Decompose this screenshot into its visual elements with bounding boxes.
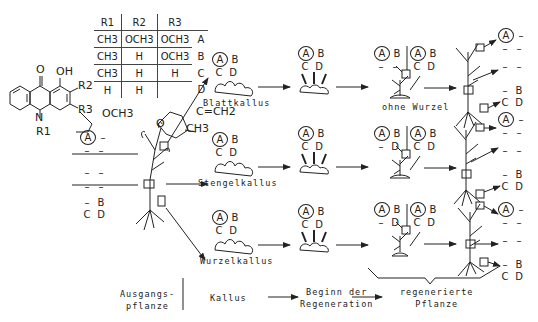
stem-callus-blob (215, 162, 253, 177)
stage-callus: Kallus (210, 293, 247, 303)
stem-callus-compounds: AB CD (212, 132, 242, 159)
leaf-regen-compounds: A– –– –– –B CD (498, 28, 528, 109)
stem-regen-compounds: A– –– –– –B CD (498, 112, 528, 193)
side-chain-methyl: CH3 (186, 123, 209, 134)
leaf-plantlet-base-compounds: AB CD (410, 46, 440, 73)
root-callus-blob (215, 240, 253, 255)
stem-plantlet-base-compounds: AB CD (410, 126, 440, 153)
regenerated-plant-drawings (454, 40, 500, 276)
leaf-callus-label: Blattkallus (203, 98, 270, 108)
table-row: CH3 H H C (94, 65, 208, 82)
stage-source-plant: Ausgangs- pflanze (120, 288, 175, 312)
stem-begin-compounds: AB CD (298, 126, 328, 153)
root-callus-compounds: AB CD (212, 210, 242, 237)
table-row: CH3 H OCH3 B (94, 48, 208, 65)
oh-label: OH (56, 66, 73, 77)
r2-label: R2 (78, 80, 93, 91)
leaf-begin-compounds: AB CD (298, 46, 328, 73)
och3-label: OCH3 (102, 108, 134, 119)
n-label: N (35, 112, 43, 123)
stage-begin-regeneration: Beginn der Regeneration (300, 286, 373, 310)
leaf-callus-blob (215, 82, 253, 97)
carbonyl-o-label: O (36, 64, 45, 75)
no-root-note: ohne Wurzel (382, 102, 449, 112)
root-callus-label: Wurzelkallus (200, 256, 273, 266)
root-plantlet-shoot-compounds: AB –D (374, 202, 404, 229)
source-plant-compounds: A– –– –– –– –B CD (80, 130, 110, 221)
r1-label: R1 (36, 126, 51, 137)
stem-callus-label: Stengelkallus (198, 178, 278, 188)
r3-label: R3 (78, 104, 93, 115)
table-header-row: R1 R2 R3 (94, 14, 208, 31)
root-regen-compounds: A– –– –– –B CD (498, 202, 528, 283)
source-plant-drawing (136, 122, 170, 230)
stage-regenerated-plant: regenerierte Pflanze (400, 286, 473, 310)
table-row: CH3 OCH3 OCH3 A (94, 31, 208, 48)
root-plantlet-base-compounds: AB CD (410, 202, 440, 229)
substituent-table: R1 R2 R3 CH3 OCH3 OCH3 A CH3 H OCH3 B CH… (94, 14, 208, 98)
stem-plantlet-shoot-compounds: AB –D (374, 126, 404, 153)
leaf-callus-compounds: AB CD (212, 52, 242, 79)
table-row: H H D (94, 82, 208, 99)
side-chain-ring-o: O (156, 118, 165, 129)
root-begin-compounds: AB CD (298, 204, 328, 231)
leaf-plantlet-shoot-compounds: AB –– (374, 46, 404, 73)
